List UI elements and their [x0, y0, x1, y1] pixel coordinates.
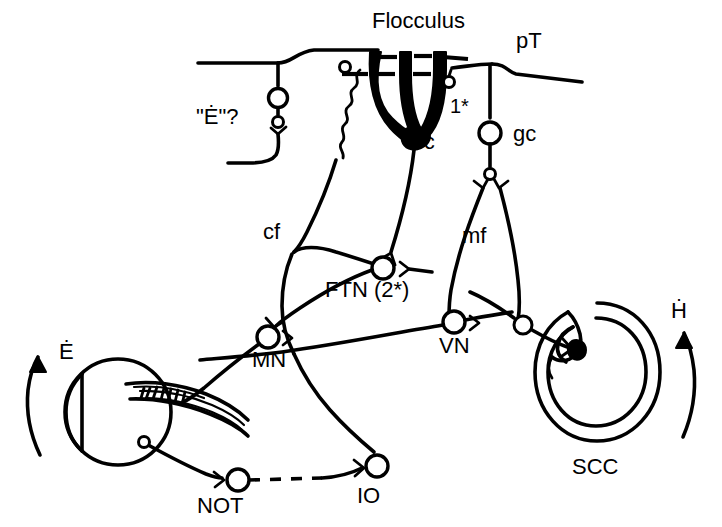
purkinje-axon — [391, 150, 414, 252]
io-group — [322, 455, 388, 478]
retinal-slip-axon — [150, 446, 222, 478]
granule-claw-left — [474, 179, 488, 188]
eye-velocity-arrowhead — [30, 357, 46, 372]
io-soma — [366, 455, 388, 477]
label-gc: gc — [513, 121, 536, 146]
pf-dash-3 — [443, 57, 468, 59]
label-scc: SCC — [572, 454, 619, 479]
eye-velocity-arrow-group — [28, 357, 47, 455]
label-not: NOT — [197, 493, 243, 518]
scc-ampulla-lower — [549, 357, 552, 378]
vestibular-ganglion-soma — [514, 316, 532, 334]
label-e-dot-query: "Ė"? — [196, 104, 239, 129]
purkinje-cell-group — [370, 52, 446, 265]
label-pt: pT — [516, 28, 542, 53]
label-ftn: FTN (2*) — [325, 277, 409, 302]
scc-outer-ring — [535, 303, 660, 441]
granule-cell-soma — [479, 122, 501, 144]
efference-copy-return-hook — [228, 134, 279, 163]
mn-axon-to-muscle — [183, 344, 259, 402]
scc-group — [535, 303, 660, 441]
label-e-dot: Ė — [59, 339, 74, 364]
climbing-fiber-ascending — [294, 160, 336, 252]
one-star-stem — [449, 70, 451, 76]
ftn-output-axon-right — [409, 269, 432, 272]
label-cf: cf — [263, 219, 281, 244]
label-flocculus: Flocculus — [372, 8, 465, 33]
parallel-fiber-arc-to-flocculus — [278, 50, 378, 63]
efference-copy-soma-small — [273, 117, 284, 128]
diagram-canvas: Flocculus pT 1* Pc gc "Ė"? cf mf FTN (2*… — [0, 0, 722, 527]
pt-fiber-to-right — [492, 64, 582, 82]
vn-to-mn-tract — [200, 325, 443, 360]
climbing-fiber-to-io — [294, 354, 374, 452]
granule-cell-group — [474, 66, 508, 188]
parallel-fiber-right-of-flocculus — [452, 64, 492, 68]
climbing-fiber-squiggle — [340, 70, 360, 158]
efference-copy-soma-large — [269, 89, 288, 108]
scc-hair-cell-blob — [568, 340, 586, 360]
endplate-hatch-5 — [175, 390, 178, 402]
label-h-dot: Ḣ — [671, 298, 687, 323]
head-velocity-arrowhead — [676, 333, 692, 348]
label-pc: Pc — [409, 129, 435, 154]
label-io: IO — [357, 483, 380, 508]
climbing-fiber-pathway — [282, 160, 386, 452]
vn-soma — [443, 311, 465, 333]
not-to-io-dashed-path — [249, 478, 322, 480]
ftn-soma — [372, 257, 394, 279]
not-soma — [227, 469, 249, 491]
label-vn: VN — [439, 333, 470, 358]
retinal-output-node — [139, 437, 150, 448]
mossy-fiber-right — [500, 188, 520, 320]
head-velocity-arrow-group — [676, 333, 695, 437]
circuit-diagram-svg: Flocculus pT 1* Pc gc "Ė"? cf mf FTN (2*… — [0, 0, 722, 527]
basket-cell-soma — [340, 62, 351, 73]
mossy-fiber-left — [449, 188, 483, 318]
parallel-fiber-pathway — [198, 50, 582, 82]
label-one-star: 1* — [450, 95, 469, 117]
label-mf: mf — [462, 223, 487, 248]
label-mn: MN — [252, 347, 286, 372]
not-group — [139, 437, 323, 492]
one-star-soma — [444, 77, 455, 88]
